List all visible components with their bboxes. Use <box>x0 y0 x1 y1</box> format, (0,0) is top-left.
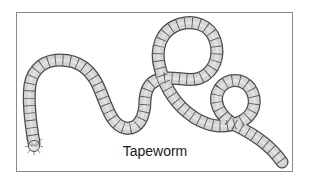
worm-body <box>29 23 282 162</box>
figure-caption: Tapeworm <box>120 143 190 159</box>
